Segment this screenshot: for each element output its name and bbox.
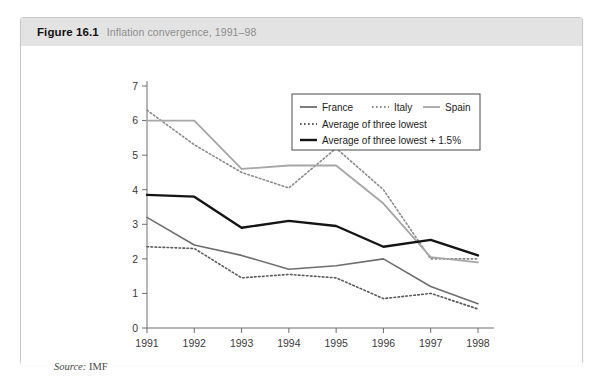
series-line-france — [147, 217, 478, 303]
y-tick-label: 3 — [132, 218, 138, 230]
chart-plot-area: 0123456719911992199319941995199619971998… — [21, 46, 582, 365]
y-tick-label: 4 — [132, 184, 138, 196]
x-tick-label: 1992 — [183, 337, 207, 349]
x-tick-label: 1995 — [324, 337, 348, 349]
source-label: Source: — [54, 361, 86, 372]
y-tick-label: 5 — [132, 149, 138, 161]
figure-number: Figure 16.1 — [37, 26, 99, 38]
line-chart: 0123456719911992199319941995199619971998… — [21, 46, 584, 365]
legend-label: Average of three lowest — [322, 119, 427, 130]
y-tick-label: 6 — [132, 114, 138, 126]
x-tick-label: 1991 — [135, 337, 159, 349]
x-tick-label: 1993 — [230, 337, 254, 349]
chart-legend: FranceItalySpainAverage of three lowestA… — [292, 94, 480, 150]
figure-card: Figure 16.1 Inflation convergence, 1991–… — [20, 17, 583, 364]
source-value: IMF — [86, 361, 107, 372]
y-tick-label: 1 — [132, 287, 138, 299]
y-tick-label: 2 — [132, 253, 138, 265]
x-tick-label: 1996 — [372, 337, 396, 349]
x-tick-label: 1997 — [419, 337, 443, 349]
legend-label: Spain — [445, 102, 471, 113]
y-tick-label: 0 — [132, 322, 138, 334]
figure-caption: Inflation convergence, 1991–98 — [107, 26, 257, 38]
legend-label: Italy — [394, 102, 412, 113]
x-tick-label: 1998 — [466, 337, 490, 349]
x-tick-label: 1994 — [277, 337, 301, 349]
source-note: Source: IMF — [54, 361, 108, 372]
figure-header: Figure 16.1 Inflation convergence, 1991–… — [21, 18, 582, 46]
legend-label: Average of three lowest + 1.5% — [322, 135, 461, 146]
y-tick-label: 7 — [132, 80, 138, 92]
legend-label: France — [322, 102, 354, 113]
